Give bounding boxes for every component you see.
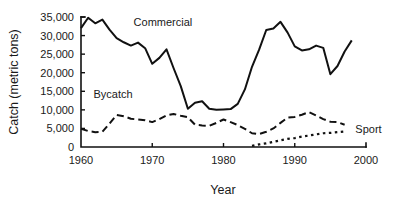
x-tick-label: 1990: [283, 154, 307, 166]
y-axis-title: Catch (metric tons): [7, 29, 21, 135]
x-tick-label-group: 19601970198019902000: [69, 154, 378, 166]
series-path-group: [81, 18, 352, 146]
tick-mark-group: [81, 17, 295, 147]
x-tick-label: 1970: [140, 154, 164, 166]
x-tick-label: 2000: [354, 154, 378, 166]
y-tick-label: 10,000: [40, 104, 74, 116]
y-tick-label: 0: [68, 141, 74, 153]
y-tick-label-group: 05,00010,00015,00020,00025,00030,00035,0…: [40, 11, 74, 153]
x-tick-label: 1960: [69, 154, 93, 166]
chart-figure: Catch (metric tons) Year 05,00010,00015,…: [0, 0, 402, 203]
x-tick-label: 1980: [211, 154, 235, 166]
series-line-sport: [252, 131, 345, 145]
x-axis-title: Year: [210, 183, 235, 197]
axis-spine: [81, 17, 366, 147]
series-label-bycatch: Bycatch: [93, 88, 132, 100]
y-tick-label: 15,000: [40, 85, 74, 97]
series-line-bycatch: [81, 112, 345, 134]
y-tick-label: 30,000: [40, 30, 74, 42]
series-label-group: CommercialBycatchSport: [93, 16, 381, 134]
y-tick-label: 25,000: [40, 48, 74, 60]
series-label-sport: Sport: [355, 123, 381, 135]
axis-lines: [81, 17, 366, 147]
y-tick-label: 5,000: [46, 122, 74, 134]
line-chart-svg: Catch (metric tons) Year 05,00010,00015,…: [0, 0, 402, 203]
y-tick-label: 35,000: [40, 11, 74, 23]
y-tick-label: 20,000: [40, 67, 74, 79]
series-label-commercial: Commercial: [134, 16, 193, 28]
